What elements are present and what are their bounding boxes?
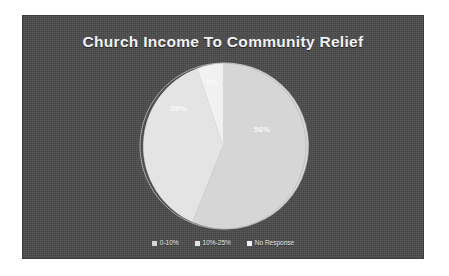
screenshot-root: Church Income To Community Relief 56% 39… <box>0 0 449 276</box>
legend-label-no-response: No Response <box>255 239 294 247</box>
pie-svg: 56% 39% 5% <box>140 63 306 229</box>
chart-panel: Church Income To Community Relief 56% 39… <box>22 15 424 259</box>
pie-chart: 56% 39% 5% <box>140 63 306 229</box>
legend-swatch-icon-no-response <box>247 241 252 246</box>
legend-swatch-icon-0-10 <box>152 241 157 246</box>
legend-item-no-response[interactable]: No Response <box>247 239 294 247</box>
chart-title: Church Income To Community Relief <box>22 33 424 51</box>
chart-legend: 0-10% 10%-25% No Response <box>22 239 424 247</box>
legend-swatch-icon-10-25 <box>195 241 200 246</box>
legend-label-10-25: 10%-25% <box>203 239 231 247</box>
legend-item-10-25[interactable]: 10%-25% <box>195 239 231 247</box>
pie-label-no-response: 5% <box>206 78 218 87</box>
pie-label-0-10: 56% <box>254 125 270 134</box>
legend-label-0-10: 0-10% <box>160 239 179 247</box>
pie-label-10-25: 39% <box>170 104 186 113</box>
legend-item-0-10[interactable]: 0-10% <box>152 239 179 247</box>
